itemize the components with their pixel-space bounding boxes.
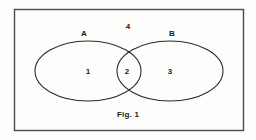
figure-border — [15, 10, 244, 131]
venn-diagram-canvas — [0, 0, 256, 140]
set-a-ellipse — [35, 41, 141, 101]
venn-diagram-figure: A B 1 2 3 4 Fig. 1 — [0, 0, 256, 140]
set-b-ellipse — [117, 41, 223, 101]
